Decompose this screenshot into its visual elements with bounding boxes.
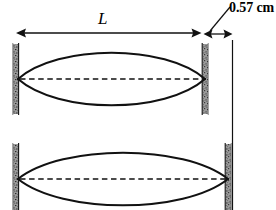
gap-length-label: 0.57 cm [229,1,274,15]
upper-wave-crest [18,53,205,79]
lower-left-wall [13,143,19,210]
lower-wave-trough [18,179,228,205]
figure-canvas [0,0,276,210]
lower-wave-crest [18,153,228,179]
length-label: L [98,10,107,27]
gap-leader-line [210,7,230,31]
upper-wave-trough [18,79,205,105]
standing-wave-figure: L 0.57 cm [0,0,276,210]
length-dimension-arrow [16,29,202,38]
gap-dimension-arrow [204,29,233,38]
